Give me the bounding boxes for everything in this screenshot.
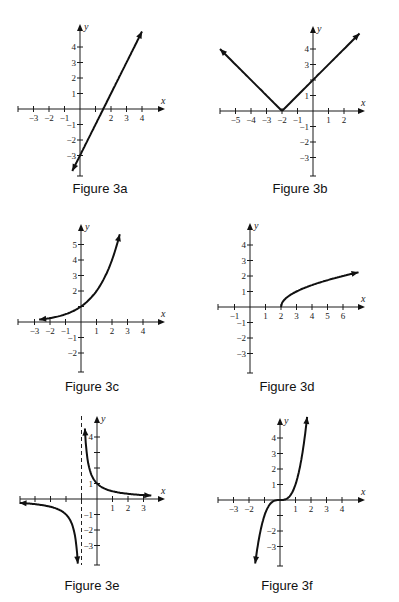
x-tick-label: 1 xyxy=(263,311,268,321)
y-axis-label: y xyxy=(316,23,322,34)
x-tick-label: −2 xyxy=(277,115,287,125)
y-tick-label: −1 xyxy=(83,510,93,520)
x-axis-arrow xyxy=(358,304,365,310)
figure-caption: Figure 3a xyxy=(73,181,129,196)
x-tick-label: 5 xyxy=(325,311,330,321)
chart-3: xy−3−2−11234−2−12345Figure 3c xyxy=(18,221,166,394)
y-axis-arrow xyxy=(277,418,283,425)
y-tick-label: 2 xyxy=(73,286,78,296)
y-tick-label: −1 xyxy=(299,122,309,132)
y-tick-label: 3 xyxy=(242,256,247,266)
y-tick-label: 2 xyxy=(242,271,247,281)
y-tick-label: 2 xyxy=(72,73,77,83)
y-tick-label: −1 xyxy=(66,120,76,130)
x-axis-arrow xyxy=(158,106,165,112)
x-tick-label: 4 xyxy=(140,113,145,123)
y-axis-label: y xyxy=(100,413,106,424)
chart-5: xy123−3−2−114Figure 3e xyxy=(20,413,167,593)
figure-caption: Figure 3d xyxy=(260,379,315,394)
function-curve xyxy=(281,272,359,307)
x-tick-label: 4 xyxy=(340,504,345,514)
y-axis-label: y xyxy=(253,220,259,231)
curve-arrow-end xyxy=(144,492,151,498)
chart-2: xy−5−4−3−2−112−3−2−1134Figure 3b xyxy=(220,23,366,196)
x-tick-label: 2 xyxy=(110,326,115,336)
x-axis-label: x xyxy=(160,308,166,319)
y-tick-label: −1 xyxy=(67,333,77,343)
function-curve xyxy=(72,32,142,172)
x-tick-label: 1 xyxy=(110,503,115,513)
curve-arrow-start xyxy=(20,500,27,506)
y-axis-arrow xyxy=(78,224,84,231)
y-tick-label: 4 xyxy=(73,255,78,265)
y-tick-label: −2 xyxy=(266,526,276,536)
x-tick-label: 3 xyxy=(324,504,329,514)
function-curve xyxy=(220,34,360,111)
x-tick-label: 1 xyxy=(293,504,298,514)
y-tick-label: 4 xyxy=(272,433,277,443)
x-axis-arrow xyxy=(358,497,365,503)
y-tick-label: 4 xyxy=(242,240,247,250)
y-tick-label: 3 xyxy=(73,271,78,281)
x-axis-arrow xyxy=(358,108,365,114)
y-tick-label: −1 xyxy=(236,318,246,328)
y-tick-label: −2 xyxy=(299,137,309,147)
y-tick-label: 1 xyxy=(272,480,277,490)
y-axis-label: y xyxy=(283,415,289,426)
x-tick-label: 2 xyxy=(309,504,314,514)
y-axis-arrow xyxy=(310,26,316,33)
y-axis-arrow xyxy=(77,24,83,31)
x-tick-label: −3 xyxy=(29,113,39,123)
y-tick-label: 5 xyxy=(73,240,78,250)
y-axis-label: y xyxy=(84,221,90,232)
y-tick-label: 3 xyxy=(272,449,277,459)
x-tick-label: 3 xyxy=(125,326,130,336)
figure-caption: Figure 3e xyxy=(65,578,120,593)
x-tick-label: −2 xyxy=(44,113,54,123)
x-tick-label: 2 xyxy=(342,115,347,125)
figure-sheet: xy−3−2−1234−3−2−11234Figure 3axy−5−4−3−2… xyxy=(0,0,399,602)
x-tick-label: 2 xyxy=(126,503,131,513)
y-tick-label: −3 xyxy=(66,151,76,161)
y-tick-label: 3 xyxy=(305,60,310,70)
x-tick-label: 1 xyxy=(326,115,331,125)
y-tick-label: −3 xyxy=(236,349,246,359)
curve-arrow-start xyxy=(82,429,88,436)
y-axis-arrow xyxy=(247,223,253,230)
x-axis-label: x xyxy=(360,486,366,497)
x-axis-label: x xyxy=(160,485,166,496)
curve-arrow-end xyxy=(74,556,80,563)
x-axis-arrow xyxy=(158,319,165,325)
y-axis-label: y xyxy=(83,21,89,32)
y-tick-label: 3 xyxy=(72,58,77,68)
x-axis-arrow xyxy=(158,496,165,502)
y-tick-label: −2 xyxy=(236,333,246,343)
function-curve xyxy=(255,417,307,564)
y-tick-label: 1 xyxy=(72,89,77,99)
chart-1: xy−3−2−1234−3−2−11234Figure 3a xyxy=(18,21,166,196)
x-tick-label: −3 xyxy=(30,326,40,336)
y-tick-label: 1 xyxy=(89,479,94,489)
chart-4: xy−1123456−3−2−11234Figure 3d xyxy=(218,220,366,394)
x-tick-label: −2 xyxy=(244,504,254,514)
x-tick-label: 2 xyxy=(109,113,114,123)
chart-6: xy−3−21234−3−21234Figure 3f xyxy=(218,415,366,593)
x-tick-label: 6 xyxy=(341,311,346,321)
y-axis-arrow xyxy=(94,416,100,423)
y-tick-label: 1 xyxy=(242,287,247,297)
x-tick-label: 4 xyxy=(141,326,146,336)
y-tick-label: −2 xyxy=(83,525,93,535)
y-tick-label: −2 xyxy=(67,348,77,358)
x-axis-label: x xyxy=(160,95,166,106)
y-tick-label: −3 xyxy=(266,542,276,552)
y-tick-label: 1 xyxy=(305,91,310,101)
x-tick-label: 3 xyxy=(124,113,129,123)
x-tick-label: 4 xyxy=(310,311,315,321)
function-curve xyxy=(39,234,120,319)
x-tick-label: −2 xyxy=(45,326,55,336)
y-tick-label: −2 xyxy=(66,135,76,145)
x-tick-label: −4 xyxy=(246,115,256,125)
x-tick-label: −5 xyxy=(231,115,241,125)
x-tick-label: 3 xyxy=(294,311,299,321)
y-tick-label: 4 xyxy=(72,42,77,52)
